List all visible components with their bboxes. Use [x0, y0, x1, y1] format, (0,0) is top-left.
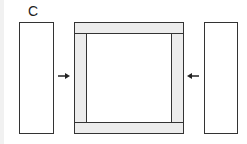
frame-top-bar [74, 22, 184, 34]
arrow-left-icon [187, 72, 199, 80]
left-edge-shading [0, 0, 4, 144]
arrow-right-icon [58, 72, 70, 80]
frame-left-side-bar [74, 33, 87, 123]
frame-bottom-bar [74, 122, 184, 134]
figure-label: C [28, 3, 38, 19]
frame-right-side-bar [171, 33, 184, 123]
left-panel [19, 22, 54, 134]
right-panel [204, 22, 238, 134]
